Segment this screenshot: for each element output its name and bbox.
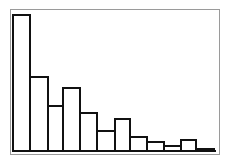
histogram-chart	[0, 0, 225, 167]
histogram-bar	[181, 140, 196, 151]
histogram-bar	[130, 137, 147, 151]
histogram-bar	[80, 113, 97, 151]
histogram-bar	[115, 119, 130, 151]
histogram-bar	[48, 106, 63, 151]
histogram-bar	[63, 88, 80, 151]
histogram-bar	[30, 77, 48, 151]
histogram-bar	[13, 15, 30, 151]
histogram-bar	[97, 131, 115, 151]
histogram-bar	[147, 142, 164, 151]
